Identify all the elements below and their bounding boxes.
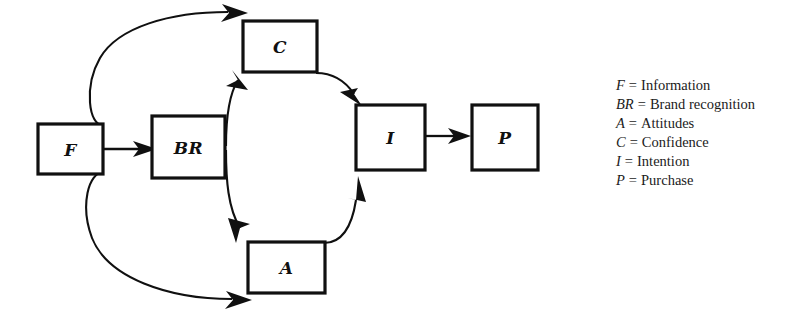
legend-symbol-br: BR [616,95,634,114]
legend-term-a: Attitudes [641,114,694,133]
arrowhead-a-to-i [348,176,366,202]
edge-br-to-c [226,70,248,146]
node-c-label: C [273,37,287,57]
node-f[interactable]: F [38,124,103,174]
legend-term-c: Confidence [642,133,709,152]
legend-item-br: BR = Brand recognition [616,95,801,114]
legend-equals: = [625,152,633,171]
node-a-label: A [278,258,294,278]
edge-c-to-i [316,73,362,106]
legend-symbol-c: C [616,133,626,152]
edge-br-to-a [226,150,250,243]
node-a[interactable]: A [248,242,325,293]
legend-symbol-i: I [616,152,621,171]
edge-i-to-p [426,128,471,144]
legend-symbol-f: F [616,76,625,95]
arrowhead-c-to-i [340,88,362,106]
legend-equals: = [629,171,637,190]
node-i-label: I [385,128,395,148]
edge-f-to-c [90,4,248,126]
legend-term-i: Intention [637,152,689,171]
edge-a-to-i [324,176,366,243]
edge-f-to-br [104,141,157,157]
legend-item-a: A = Attitudes [616,114,801,133]
node-br-label: BR [173,138,204,158]
legend-equals: = [629,76,637,95]
node-f-label: F [63,140,78,160]
legend-item-i: I = Intention [616,152,801,171]
arrowhead-br-to-a [228,218,250,243]
node-i[interactable]: I [356,105,425,170]
node-p-label: P [497,128,512,148]
diagram-canvas: F BR C A I P F = Information [0,0,808,315]
legend-equals: = [630,133,638,152]
legend-equals: = [629,114,637,133]
legend-item-p: P = Purchase [616,171,801,190]
legend-equals: = [638,95,646,114]
legend-term-p: Purchase [641,171,693,190]
node-br[interactable]: BR [152,116,225,178]
edge-f-to-a [86,172,252,309]
legend-symbol-p: P [616,171,625,190]
legend-item-c: C = Confidence [616,133,801,152]
node-p[interactable]: P [472,105,538,170]
legend: F = Information BR = Brand recognition A… [616,76,801,190]
legend-term-f: Information [641,76,710,95]
node-c[interactable]: C [243,21,317,72]
legend-symbol-a: A [616,114,625,133]
legend-item-f: F = Information [616,76,801,95]
legend-term-br: Brand recognition [650,95,755,114]
